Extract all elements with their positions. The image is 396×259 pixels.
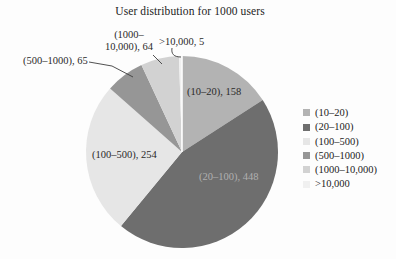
legend-swatch	[303, 152, 310, 159]
legend-label: (20–100)	[315, 121, 354, 133]
slice-label-10-20: (10–20), 158	[187, 86, 241, 98]
slice-label-1000-10000: (1000– 10,000), 64	[101, 29, 157, 52]
leader-line-gt-10000	[172, 48, 181, 57]
legend-item: (10–20)	[303, 107, 377, 119]
slice-label-1000-10000-line2: 10,000), 64	[105, 41, 153, 52]
legend-swatch	[303, 109, 310, 116]
legend-swatch	[303, 138, 310, 145]
legend-label: (1000–10,000)	[315, 164, 377, 176]
legend-swatch	[303, 181, 310, 188]
legend-swatch	[303, 166, 310, 173]
slice-label-1000-10000-line1: (1000–	[114, 29, 144, 40]
pie-chart-figure: User distribution for 1000 users (10–20)…	[0, 0, 396, 259]
legend-item: (100–500)	[303, 136, 377, 148]
legend-item: (1000–10,000)	[303, 164, 377, 176]
legend-swatch	[303, 124, 310, 131]
legend-label: (10–20)	[315, 107, 348, 119]
legend-label: >10,000	[315, 178, 350, 190]
legend-item: >10,000	[303, 178, 377, 190]
legend-label: (100–500)	[315, 136, 359, 148]
legend: (10–20)(20–100)(100–500)(500–1000)(1000–…	[303, 107, 377, 193]
slice-label-20-100: (20–100), 448	[199, 171, 259, 183]
legend-label: (500–1000)	[315, 150, 364, 162]
legend-item: (500–1000)	[303, 150, 377, 162]
legend-item: (20–100)	[303, 121, 377, 133]
slice-label-gt-10000: >10,000, 5	[159, 36, 204, 48]
slice-label-100-500: (100–500), 254	[92, 149, 157, 161]
slice-label-500-1000: (500–1000), 65	[23, 55, 88, 67]
